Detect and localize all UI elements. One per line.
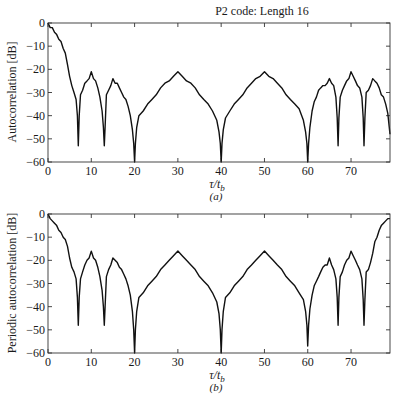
xtick-label: 0 — [45, 355, 51, 369]
ytick-label: −30 — [26, 86, 45, 100]
xtick-label: 40 — [215, 164, 227, 178]
xtick-label: 70 — [345, 355, 357, 369]
xtick-label: 0 — [45, 164, 51, 178]
xtick-label: 70 — [345, 164, 357, 178]
xtick-label: 20 — [129, 164, 141, 178]
ytick-label: −60 — [26, 155, 45, 169]
panel-a-autocorrelation: Autocorrelation [dB] 0−10−20−30−40−50−60… — [5, 16, 390, 203]
ytick-label: −30 — [26, 277, 45, 291]
ytick-label: −10 — [26, 39, 45, 53]
ytick-label: −40 — [26, 109, 45, 123]
panel-b-frame — [48, 214, 390, 353]
xtick-label: 30 — [172, 355, 184, 369]
ytick-label: 0 — [39, 207, 45, 221]
ytick-label: −20 — [26, 253, 45, 267]
xtick-label: 10 — [85, 355, 97, 369]
xtick-label: 40 — [215, 355, 227, 369]
panel-b-curve — [48, 214, 390, 353]
ytick-label: 0 — [39, 16, 45, 30]
panel-a-ylabel: Autocorrelation [dB] — [5, 42, 19, 143]
xtick-label: 20 — [129, 355, 141, 369]
panel-a-curve — [48, 23, 390, 162]
chart-title: P2 code: Length 16 — [215, 4, 309, 18]
panel-b-caption: (b) — [210, 381, 223, 394]
ytick-label: −50 — [26, 132, 45, 146]
ytick-label: −50 — [26, 323, 45, 337]
xtick-label: 10 — [85, 164, 97, 178]
panel-a-caption: (a) — [210, 190, 223, 203]
xtick-label: 50 — [258, 355, 270, 369]
ytick-label: −10 — [26, 230, 45, 244]
xtick-label: 50 — [258, 164, 270, 178]
panel-b-ylabel: Periodic autocorrelation [dB] — [5, 213, 19, 354]
xtick-label: 60 — [302, 164, 314, 178]
ytick-label: −20 — [26, 62, 45, 76]
xtick-label: 60 — [302, 355, 314, 369]
chart-figure: P2 code: Length 16 Autocorrelation [dB] … — [0, 0, 402, 406]
panel-b-xticks: 010203040506070 — [45, 214, 357, 369]
panel-a-xticks: 010203040506070 — [45, 23, 357, 178]
ytick-label: −60 — [26, 346, 45, 360]
ytick-label: −40 — [26, 300, 45, 314]
panel-b-periodic-autocorrelation: Periodic autocorrelation [dB] 0−10−20−30… — [5, 207, 390, 394]
xtick-label: 30 — [172, 164, 184, 178]
